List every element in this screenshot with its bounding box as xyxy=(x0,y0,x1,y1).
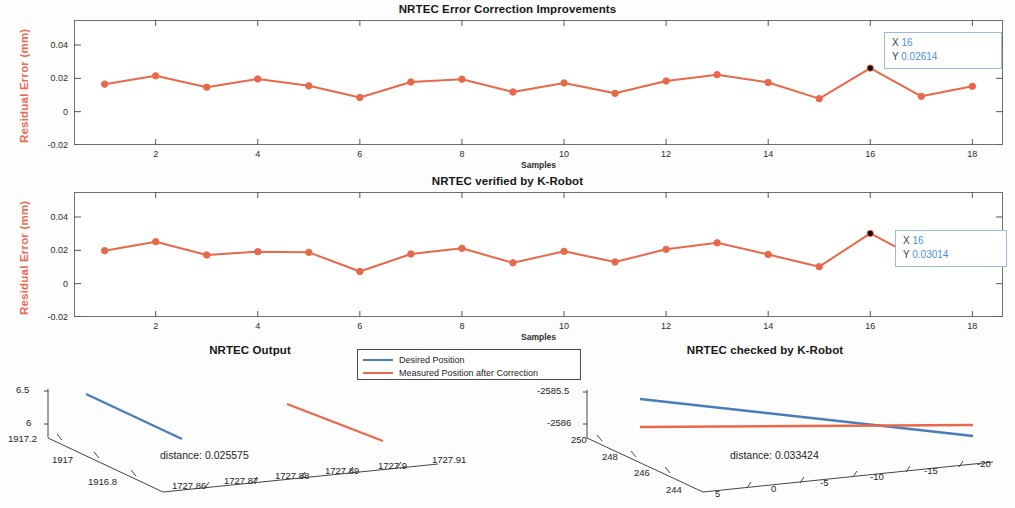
xtick-nrtec-checked-3: -10 xyxy=(870,471,884,482)
legend-swatch-desired-position xyxy=(363,359,393,361)
xtick-nrtec-checked-5: -20 xyxy=(977,458,991,469)
ztick-nrtec-output-0: 6.5 xyxy=(16,384,29,395)
xtick-label: 14 xyxy=(763,321,773,331)
x-axis-label-error-correction: Samples xyxy=(74,160,1003,170)
ytick-nrtec-output-2: 1916.8 xyxy=(88,476,117,487)
ytick-nrtec-checked-2: 246 xyxy=(634,467,650,478)
ytick-nrtec-output-0: 1917.2 xyxy=(8,433,37,444)
xtick-label: 10 xyxy=(559,321,569,331)
x-axis-label-verified-k-robot: Samples xyxy=(74,332,1003,342)
xtick-label: 8 xyxy=(459,321,464,331)
datatip-y-label: Y xyxy=(892,51,899,62)
ytick-label: 0.02 xyxy=(20,245,68,255)
matlab-figure-window: NRTEC Error Correction Improvements Resi… xyxy=(0,0,1015,508)
xtick-label: 8 xyxy=(459,149,464,159)
ytick-label: 0 xyxy=(20,279,68,289)
ztick-nrtec-output-1: 6 xyxy=(26,417,31,428)
plot-title-error-correction: NRTEC Error Correction Improvements xyxy=(0,3,1015,15)
xtick-nrtec-checked-0: 5 xyxy=(715,488,720,499)
plot3d-canvas-nrtec-checked xyxy=(515,344,1015,508)
xtick-label: 16 xyxy=(865,149,875,159)
xtick-nrtec-output-4: 1727.9 xyxy=(378,460,407,471)
xtick-label: 18 xyxy=(967,321,977,331)
xtick-nrtec-checked-2: -5 xyxy=(820,477,828,488)
xtick-nrtec-output-2: 1727.88 xyxy=(275,470,309,481)
plot-panel-verified-k-robot: NRTEC verified by K-Robot Residual Error… xyxy=(0,172,1015,342)
xtick-nrtec-output-3: 1727.89 xyxy=(325,465,359,476)
datatip-y-value: 0.03014 xyxy=(912,249,948,260)
ytick-label: 0.04 xyxy=(20,40,68,50)
xtick-nrtec-output-0: 1727.86 xyxy=(172,480,206,491)
xtick-label: 12 xyxy=(661,321,671,331)
xtick-label: 14 xyxy=(763,149,773,159)
ytick-nrtec-output-1: 1917 xyxy=(52,454,73,465)
xtick-label: 6 xyxy=(357,149,362,159)
xtick-nrtec-output-5: 1727.91 xyxy=(432,454,466,465)
distance-annotation-nrtec-output: distance: 0.025575 xyxy=(160,449,249,461)
plot-panel-nrtec-checked: NRTEC checked by K-Robot -2585.5 -2586 2… xyxy=(515,344,1015,508)
datatip-y-value: 0.02614 xyxy=(901,51,937,62)
plot-title-verified-k-robot: NRTEC verified by K-Robot xyxy=(0,175,1015,187)
ytick-nrtec-checked-3: 244 xyxy=(666,484,682,495)
datatip-y-label: Y xyxy=(903,249,910,260)
ytick-nrtec-checked-0: 250 xyxy=(571,434,587,445)
xtick-nrtec-checked-1: 0 xyxy=(771,483,776,494)
legend-swatch-measured-position xyxy=(363,372,393,374)
ytick-label: 0.02 xyxy=(20,73,68,83)
plot-panel-error-correction: NRTEC Error Correction Improvements Resi… xyxy=(0,0,1015,170)
xtick-label: 6 xyxy=(357,321,362,331)
plot-canvas-verified-k-robot xyxy=(74,192,1003,317)
datatip-x-label: X xyxy=(892,37,899,48)
xtick-nrtec-output-1: 1727.87 xyxy=(224,475,258,486)
xtick-label: 4 xyxy=(255,149,260,159)
xtick-nrtec-checked-4: -15 xyxy=(924,465,938,476)
plot-canvas-error-correction xyxy=(74,20,1003,145)
distance-annotation-nrtec-checked: distance: 0.033424 xyxy=(730,449,819,461)
xtick-label: 18 xyxy=(967,149,977,159)
datatip-verified-k-robot[interactable]: X 16 Y 0.03014 xyxy=(895,230,1007,267)
xtick-label: 4 xyxy=(255,321,260,331)
xtick-label: 10 xyxy=(559,149,569,159)
ytick-label: -0.02 xyxy=(20,312,68,322)
legend-label-desired-position: Desired Position xyxy=(399,355,465,365)
datatip-x-value: 16 xyxy=(912,235,923,246)
xtick-label: 16 xyxy=(865,321,875,331)
ytick-label: 0.04 xyxy=(20,212,68,222)
ztick-nrtec-checked-0: -2585.5 xyxy=(537,385,569,396)
datatip-error-correction[interactable]: X 16 Y 0.02614 xyxy=(884,32,1002,69)
ztick-nrtec-checked-1: -2586 xyxy=(547,417,571,428)
xtick-label: 2 xyxy=(153,321,158,331)
datatip-x-label: X xyxy=(903,235,910,246)
xtick-label: 2 xyxy=(153,149,158,159)
ytick-label: -0.02 xyxy=(20,140,68,150)
ytick-label: 0 xyxy=(20,107,68,117)
ytick-nrtec-checked-1: 248 xyxy=(602,451,618,462)
xtick-label: 12 xyxy=(661,149,671,159)
datatip-x-value: 16 xyxy=(901,37,912,48)
